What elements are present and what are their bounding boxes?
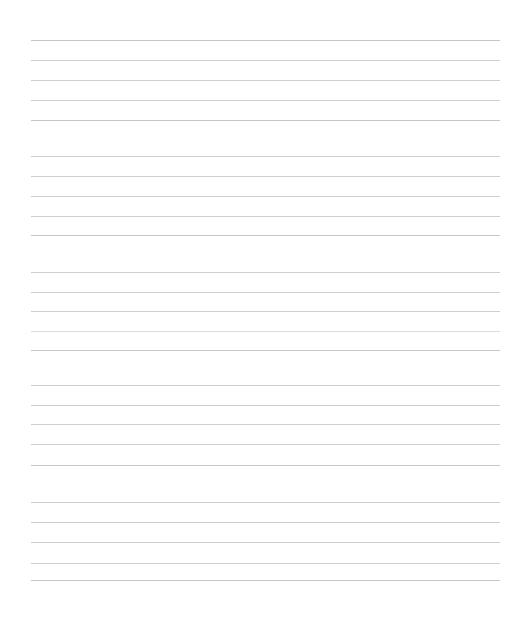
ruled-line (31, 405, 500, 406)
document-page (0, 0, 505, 626)
ruled-line (31, 350, 500, 351)
ruled-line (31, 385, 500, 386)
ruled-line (31, 522, 500, 523)
ruled-line (31, 120, 500, 121)
ruled-line (31, 542, 500, 543)
ruled-line (31, 235, 500, 236)
ruled-line (31, 444, 500, 445)
ruled-line (31, 40, 500, 41)
ruled-line (31, 176, 500, 177)
ruled-line (31, 196, 500, 197)
ruled-line (31, 60, 500, 61)
ruled-line-layer (0, 0, 505, 626)
ruled-line (31, 424, 500, 425)
ruled-line (31, 272, 500, 273)
ruled-line (31, 311, 500, 312)
ruled-line (31, 502, 500, 503)
ruled-line (31, 156, 500, 157)
ruled-line (31, 80, 500, 81)
ruled-line (31, 465, 500, 466)
ruled-line (31, 563, 500, 564)
ruled-line (31, 100, 500, 101)
ruled-line (31, 292, 500, 293)
ruled-line (31, 331, 500, 332)
ruled-line (31, 580, 500, 581)
ruled-line (31, 216, 500, 217)
